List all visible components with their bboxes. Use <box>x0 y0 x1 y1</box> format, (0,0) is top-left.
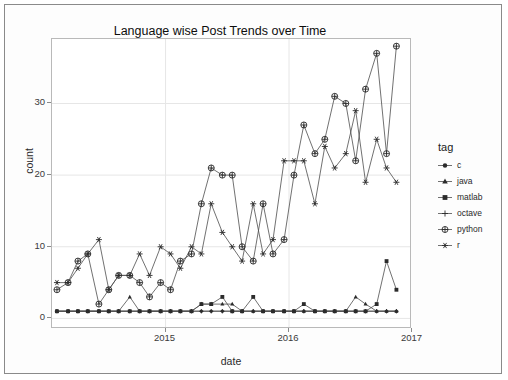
legend-item-r[interactable]: r <box>437 238 503 252</box>
data-point-r <box>137 251 143 256</box>
data-point-matlab <box>199 302 203 306</box>
legend-label: octave <box>457 208 482 218</box>
data-point-python <box>147 294 153 300</box>
data-point-python <box>96 301 102 307</box>
data-point-python <box>229 172 235 178</box>
data-point-matlab <box>117 309 121 313</box>
data-point-python <box>198 201 204 207</box>
legend-marker-asterisk-icon <box>437 239 453 252</box>
data-point-matlab <box>230 309 234 313</box>
data-point-matlab <box>344 309 348 313</box>
data-point-matlab <box>251 295 255 299</box>
y-axis-title: count <box>23 131 35 191</box>
data-point-python <box>137 280 143 286</box>
data-point-matlab <box>178 309 182 313</box>
data-point-matlab <box>66 309 70 313</box>
data-point-c <box>210 310 213 313</box>
data-point-matlab <box>282 309 286 313</box>
y-tick-mark <box>47 246 51 247</box>
legend-marker-triangle-icon <box>437 175 453 188</box>
data-point-matlab <box>138 309 142 313</box>
legend-item-c[interactable]: c <box>437 158 503 172</box>
data-point-matlab <box>107 309 111 313</box>
figure-frame: Language wise Post Trends over Time coun… <box>4 4 502 374</box>
data-point-java <box>128 295 132 299</box>
y-tick-mark <box>47 102 51 103</box>
legend-label: r <box>457 240 460 250</box>
data-point-matlab <box>86 309 90 313</box>
data-point-matlab <box>302 302 306 306</box>
plot-area <box>52 39 410 327</box>
y-tick-label: 30 <box>19 96 45 107</box>
data-point-matlab <box>209 302 213 306</box>
data-point-python <box>363 86 369 92</box>
data-point-matlab <box>323 309 327 313</box>
legend-label: c <box>457 160 461 170</box>
x-tick-label: 2017 <box>391 332 431 343</box>
legend-label: python <box>457 224 483 234</box>
legend-item-java[interactable]: java <box>437 174 503 188</box>
x-tick-mark <box>165 328 166 332</box>
legend-item-python[interactable]: python <box>437 222 503 236</box>
legend-items: cjavamatlaboctavepythonr <box>437 158 503 252</box>
data-point-matlab <box>385 259 389 263</box>
legend-marker-filled-square-icon <box>437 191 453 204</box>
data-point-python <box>106 287 112 293</box>
data-point-python <box>177 258 183 264</box>
data-point-python <box>260 201 266 207</box>
legend-label: matlab <box>457 192 483 202</box>
data-point-python <box>219 172 225 178</box>
data-point-matlab <box>55 309 59 313</box>
y-tick-label: 0 <box>19 311 45 322</box>
legend-item-octave[interactable]: octave <box>437 206 503 220</box>
data-point-python <box>393 43 399 49</box>
data-point-c <box>221 310 224 313</box>
data-point-r <box>147 273 153 278</box>
data-point-java <box>354 295 358 299</box>
plot-panel <box>51 38 411 328</box>
data-point-matlab <box>354 309 358 313</box>
data-point-matlab <box>271 309 275 313</box>
data-point-java <box>364 302 368 306</box>
data-point-python <box>322 136 328 142</box>
data-point-python <box>188 251 194 257</box>
data-point-python <box>116 272 122 278</box>
data-point-r <box>374 137 380 142</box>
series-line-r <box>57 111 397 290</box>
data-point-python <box>384 151 390 157</box>
data-point-python <box>270 251 276 257</box>
data-point-python <box>291 172 297 178</box>
data-point-python <box>332 93 338 99</box>
data-point-python <box>127 272 133 278</box>
data-point-matlab <box>76 309 80 313</box>
data-point-python <box>85 251 91 257</box>
x-tick-label: 2015 <box>145 332 185 343</box>
data-point-python <box>158 280 164 286</box>
data-point-r <box>301 158 307 163</box>
legend-item-matlab[interactable]: matlab <box>437 190 503 204</box>
data-point-matlab <box>240 309 244 313</box>
data-point-python <box>208 165 214 171</box>
data-point-matlab <box>128 309 132 313</box>
data-point-python <box>65 280 71 286</box>
data-point-matlab <box>313 309 317 313</box>
data-point-python <box>168 287 174 293</box>
data-point-python <box>343 100 349 106</box>
x-tick-mark <box>411 328 412 332</box>
data-point-r <box>229 244 235 249</box>
legend-title: tag <box>438 141 503 153</box>
data-point-python <box>374 50 380 56</box>
data-point-matlab <box>375 302 379 306</box>
y-tick-mark <box>47 317 51 318</box>
legend-marker-circle-cross-icon <box>437 223 453 236</box>
data-point-matlab <box>169 309 173 313</box>
data-point-matlab <box>333 309 337 313</box>
data-point-r <box>219 230 225 235</box>
data-point-python <box>54 287 60 293</box>
data-point-python <box>353 158 359 164</box>
data-point-r <box>54 280 60 285</box>
data-point-matlab <box>395 288 399 292</box>
data-point-matlab <box>220 295 224 299</box>
data-point-matlab <box>292 309 296 313</box>
legend-label: java <box>457 176 473 186</box>
